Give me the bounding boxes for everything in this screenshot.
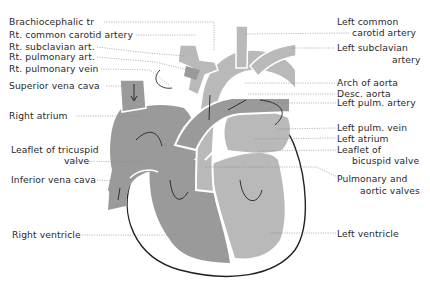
label-left-common-carotid-2: carotid artery (352, 28, 416, 38)
label-bicuspid-1: Leaflet of (337, 145, 381, 155)
label-left-subclavian-2: artery (392, 55, 420, 65)
label-left-ventricle: Left ventricle (337, 229, 399, 239)
label-right-atrium: Right atrium (9, 111, 68, 121)
label-bicuspid-2: bicuspid valve (352, 156, 419, 166)
label-pulm-aortic-valves-1: Pulmonary and (337, 174, 408, 184)
label-left-subclavian-1: Left subclavian (337, 43, 408, 53)
label-left-pulm-vein: Left pulm. vein (337, 123, 407, 133)
label-inferior-vena-cava: Inferior vena cava (11, 175, 96, 185)
label-arch-of-aorta: Arch of aorta (337, 78, 398, 88)
label-left-atrium: Left atrium (337, 134, 389, 144)
label-left-pulm-artery: Left pulm. artery (337, 98, 416, 108)
label-rt-pulmonary-art: Rt. pulmonary art. (9, 52, 95, 62)
label-tricuspid-1: Leaflet of tricuspid (11, 145, 99, 155)
label-right-ventricle: Right ventricle (12, 230, 81, 240)
label-rt-pulmonary-vein: Rt. pulmonary vein (9, 64, 98, 74)
label-left-common-carotid-1: Left common (337, 17, 398, 27)
label-superior-vena-cava: Superior vena cava (9, 81, 100, 91)
label-rt-common-carotid: Rt. common carotid artery (9, 30, 133, 40)
heart-diagram: Brachiocephalic tr Rt. common carotid ar… (0, 0, 430, 286)
label-brachiocephalic: Brachiocephalic tr (9, 17, 94, 27)
label-tricuspid-2: valve (64, 156, 89, 166)
label-pulm-aortic-valves-2: aortic valves (360, 186, 420, 196)
